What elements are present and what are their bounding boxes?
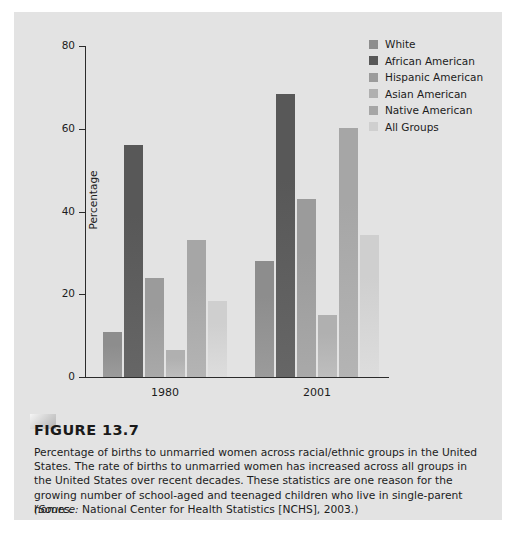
bar (187, 240, 206, 377)
legend-item: Asian American (369, 86, 499, 103)
legend-item-label: Asian American (385, 88, 467, 100)
chart-legend: WhiteAfrican AmericanHispanic AmericanAs… (369, 36, 499, 135)
y-axis-tick-label: 20 (45, 287, 75, 299)
bar (360, 235, 379, 377)
legend-swatch-icon (369, 122, 378, 131)
y-axis-label: Percentage (87, 140, 99, 260)
y-axis-tick (79, 46, 85, 47)
legend-item: White (369, 36, 499, 53)
y-axis-tick (79, 212, 85, 213)
legend-swatch-icon (369, 56, 378, 65)
plot-area: 020406080 Percentage 19802001 (85, 46, 389, 378)
figure-title: FIGURE 13.7 (34, 422, 139, 438)
legend-swatch-icon (369, 106, 378, 115)
caption-block: FIGURE 13.7 Percentage of births to unma… (14, 408, 502, 520)
bar (318, 315, 337, 377)
legend-swatch-icon (369, 40, 378, 49)
y-axis-tick (79, 377, 85, 378)
legend-item: Native American (369, 102, 499, 119)
bar (166, 350, 185, 377)
x-axis-group-label: 2001 (257, 386, 377, 399)
y-axis-tick (79, 129, 85, 130)
y-axis-tick-label: 0 (45, 370, 75, 382)
legend-item: Hispanic American (369, 69, 499, 86)
bar (124, 145, 143, 377)
bar (208, 301, 227, 377)
legend-item: All Groups (369, 119, 499, 136)
chart-region: 020406080 Percentage 19802001 WhiteAfric… (14, 12, 502, 408)
legend-item: African American (369, 53, 499, 70)
bar (103, 332, 122, 378)
y-axis-line (85, 46, 86, 378)
y-axis-tick-label: 40 (45, 205, 75, 217)
legend-item-label: White (385, 38, 416, 50)
bar (339, 128, 358, 377)
y-axis-tick-label: 80 (45, 39, 75, 51)
source-rest: National Center for Health Statistics [N… (79, 503, 359, 516)
legend-item-label: Hispanic American (385, 71, 483, 83)
legend-item-label: All Groups (385, 121, 439, 133)
legend-item-label: African American (385, 55, 475, 67)
bar (255, 261, 274, 377)
legend-swatch-icon (369, 73, 378, 82)
x-axis-line (85, 377, 389, 378)
figure-panel: 020406080 Percentage 19802001 WhiteAfric… (14, 12, 502, 520)
bar (276, 94, 295, 377)
x-axis-group-label: 1980 (105, 386, 225, 399)
legend-swatch-icon (369, 89, 378, 98)
source-prefix: (Source: (34, 503, 79, 516)
legend-item-label: Native American (385, 104, 472, 116)
bar (297, 199, 316, 377)
y-axis-tick (79, 294, 85, 295)
bar (145, 278, 164, 377)
y-axis-tick-label: 60 (45, 122, 75, 134)
figure-source-text: (Source: National Center for Health Stat… (34, 503, 484, 517)
